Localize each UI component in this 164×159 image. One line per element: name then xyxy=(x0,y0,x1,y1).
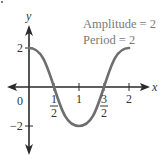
tick-three-half-denominator: 2 xyxy=(101,106,107,120)
x-axis-label: x xyxy=(151,80,158,94)
y-axis xyxy=(25,25,33,155)
origin-label: 0 xyxy=(17,94,23,108)
x-tick-label-half: 1 2 xyxy=(50,92,58,120)
x-tick-label-three-halves: 3 2 xyxy=(100,92,108,120)
tick-half-numerator: 1 xyxy=(51,92,57,106)
cosine-graph: y x 2 −2 0 1 2 1 3 2 2 Amplitude = 2 Per… xyxy=(0,0,164,159)
y-tick-label-neg2: −2 xyxy=(10,119,23,133)
x-tick-label-1: 1 xyxy=(76,92,82,106)
tick-three-half-numerator: 3 xyxy=(101,92,107,106)
x-tick-label-2: 2 xyxy=(126,92,132,106)
y-tick-label-2: 2 xyxy=(17,41,23,55)
amplitude-annotation: Amplitude = 2 xyxy=(83,17,156,31)
tick-half-denominator: 2 xyxy=(51,106,57,120)
period-annotation: Period = 2 xyxy=(83,33,135,47)
y-axis-label: y xyxy=(25,9,32,23)
